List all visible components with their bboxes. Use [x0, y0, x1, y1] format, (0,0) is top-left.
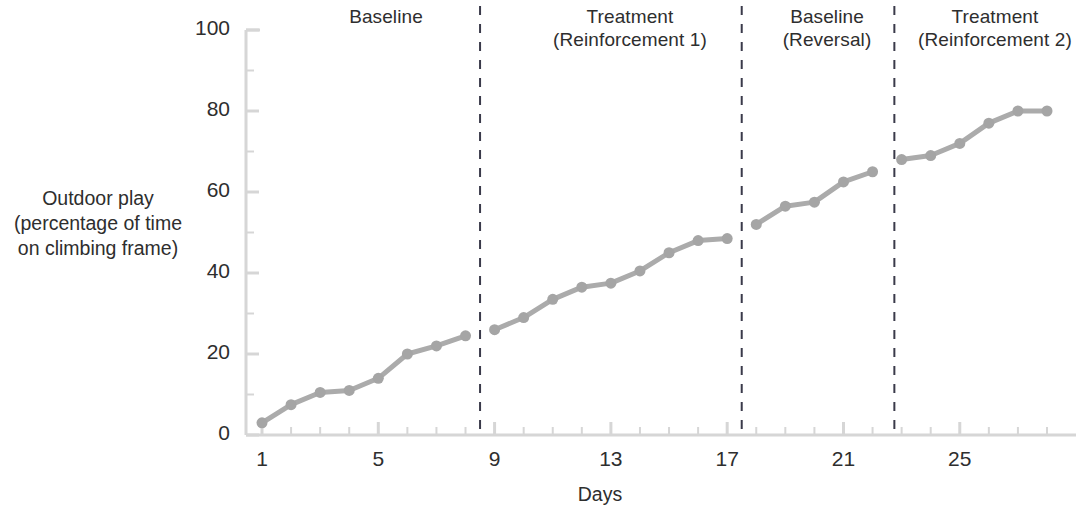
- data-point-day-11: [547, 294, 558, 305]
- y-tick-label-60: 60: [184, 178, 230, 202]
- data-point-day-13: [605, 278, 616, 289]
- data-point-day-27: [1012, 106, 1023, 117]
- axis-ticks: [246, 30, 1047, 435]
- data-point-day-3: [315, 387, 326, 398]
- x-tick-label-17: 17: [705, 447, 749, 471]
- data-point-day-5: [373, 373, 384, 384]
- y-tick-label-100: 100: [184, 16, 230, 40]
- data-point-day-15: [664, 247, 675, 258]
- x-tick-label-13: 13: [589, 447, 633, 471]
- data-point-day-25: [954, 138, 965, 149]
- data-point-day-19: [780, 201, 791, 212]
- data-point-day-12: [576, 282, 587, 293]
- data-point-day-7: [431, 340, 442, 351]
- y-tick-label-80: 80: [184, 97, 230, 121]
- data-point-day-14: [634, 265, 645, 276]
- y-tick-label-40: 40: [184, 259, 230, 283]
- x-tick-label-25: 25: [938, 447, 982, 471]
- data-point-day-21: [838, 176, 849, 187]
- data-point-day-22: [867, 166, 878, 177]
- y-tick-label-20: 20: [184, 340, 230, 364]
- x-tick-label-5: 5: [356, 447, 400, 471]
- data-point-day-28: [1042, 106, 1053, 117]
- x-tick-label-21: 21: [821, 447, 865, 471]
- data-point-day-18: [751, 219, 762, 230]
- plot-area: [0, 0, 1084, 517]
- data-point-day-4: [344, 385, 355, 396]
- data-line-segment-3: [902, 111, 1047, 160]
- data-point-day-10: [518, 312, 529, 323]
- data-point-day-9: [489, 324, 500, 335]
- data-point-day-23: [896, 154, 907, 165]
- data-point-day-24: [925, 150, 936, 161]
- y-tick-label-0: 0: [184, 421, 230, 445]
- x-tick-label-1: 1: [240, 447, 284, 471]
- data-point-day-17: [722, 233, 733, 244]
- axis-lines: [246, 30, 1076, 435]
- chart-container: Baseline Treatment (Reinforcement 1) Bas…: [0, 0, 1084, 517]
- data-point-day-26: [983, 118, 994, 129]
- data-point-day-8: [460, 330, 471, 341]
- data-markers: [257, 106, 1053, 429]
- data-point-day-1: [257, 417, 268, 428]
- phase-divider-lines: [480, 6, 894, 437]
- data-point-day-2: [286, 399, 297, 410]
- data-point-day-20: [809, 197, 820, 208]
- x-tick-label-9: 9: [473, 447, 517, 471]
- data-point-day-6: [402, 349, 413, 360]
- data-point-day-16: [693, 235, 704, 246]
